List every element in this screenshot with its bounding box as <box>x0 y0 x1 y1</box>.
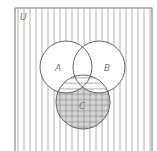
venn-diagram: U A B C <box>0 0 157 151</box>
set-a-label: A <box>54 63 61 73</box>
set-b-label: B <box>104 63 110 73</box>
set-c-label: C <box>79 101 86 111</box>
universe-label: U <box>20 12 27 22</box>
